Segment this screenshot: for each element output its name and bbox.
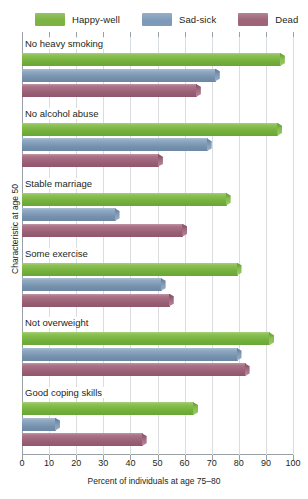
bar-happy-well xyxy=(22,53,285,66)
bar-group: Not overweight xyxy=(22,315,293,385)
bar-sad-sick xyxy=(22,69,220,82)
bar-cap xyxy=(182,224,187,237)
bar-sad-sick xyxy=(22,208,120,221)
bar-happy-well xyxy=(22,193,231,206)
bar-cap xyxy=(169,294,174,307)
chart-legend: Happy-well Sad-sick Dead xyxy=(0,9,308,29)
legend-swatch-happy-well xyxy=(35,13,65,26)
bar-body xyxy=(22,363,246,376)
bar-dead xyxy=(22,154,163,167)
bar-cap xyxy=(215,69,220,82)
bar-body xyxy=(22,154,159,167)
bar-cap xyxy=(161,278,166,291)
bar-group: Good coping skills xyxy=(22,385,293,455)
group-label: Not overweight xyxy=(24,317,91,328)
bar-happy-well xyxy=(22,402,198,415)
y-axis-title: Characteristic at age 50 xyxy=(10,144,20,314)
bar-group: No heavy smoking xyxy=(22,36,293,106)
bar-cap xyxy=(142,433,147,446)
x-tick-label-10: 10 xyxy=(44,458,54,468)
chart-root: Happy-well Sad-sick Dead Characteristic … xyxy=(0,0,308,499)
bar-cap xyxy=(226,193,231,206)
bar-cap xyxy=(115,208,120,221)
bar-group: No alcohol abuse xyxy=(22,106,293,176)
legend-label-happy-well: Happy-well xyxy=(72,14,120,25)
legend-label-sad-sick: Sad-sick xyxy=(179,14,216,25)
bar-cap xyxy=(55,418,60,431)
bar-cap xyxy=(245,363,250,376)
bar-body xyxy=(22,53,281,66)
bar-body xyxy=(22,69,216,82)
legend-item-happy-well: Happy-well xyxy=(35,13,120,26)
bar-happy-well xyxy=(22,263,242,276)
x-axis-tick-labels: 0102030405060708090100 xyxy=(22,458,293,472)
group-label: Good coping skills xyxy=(24,387,105,398)
bar-body xyxy=(22,294,170,307)
bar-sad-sick xyxy=(22,278,166,291)
bar-body xyxy=(22,138,208,151)
bar-dead xyxy=(22,224,187,237)
bar-body xyxy=(22,348,238,361)
bar-body xyxy=(22,418,56,431)
x-tick-label-20: 20 xyxy=(71,458,81,468)
bar-group: Some exercise xyxy=(22,246,293,316)
group-label: Stable marriage xyxy=(24,178,95,189)
group-label: No heavy smoking xyxy=(24,38,106,49)
x-axis-title: Percent of individuals at age 75–80 xyxy=(0,476,308,486)
bar-cap xyxy=(207,138,212,151)
bar-dead xyxy=(22,294,174,307)
bar-happy-well xyxy=(22,123,282,136)
bar-body xyxy=(22,224,183,237)
x-tick-label-60: 60 xyxy=(180,458,190,468)
bar-body xyxy=(22,278,162,291)
bar-cap xyxy=(280,53,285,66)
legend-item-dead: Dead xyxy=(238,13,298,26)
bar-cap xyxy=(277,123,282,136)
legend-swatch-sad-sick xyxy=(142,13,172,26)
x-tick-label-40: 40 xyxy=(125,458,135,468)
bar-cap xyxy=(269,332,274,345)
x-tick-label-100: 100 xyxy=(285,458,300,468)
x-tick-label-80: 80 xyxy=(234,458,244,468)
bar-body xyxy=(22,332,270,345)
bar-sad-sick xyxy=(22,138,212,151)
bar-sad-sick xyxy=(22,348,242,361)
x-tick-label-30: 30 xyxy=(98,458,108,468)
legend-label-dead: Dead xyxy=(275,14,298,25)
bar-body xyxy=(22,208,116,221)
bar-dead xyxy=(22,363,250,376)
bar-dead xyxy=(22,433,147,446)
x-tick-label-0: 0 xyxy=(19,458,24,468)
legend-swatch-dead xyxy=(238,13,268,26)
bar-cap xyxy=(196,84,201,97)
bar-cap xyxy=(193,402,198,415)
bar-body xyxy=(22,402,194,415)
bar-body xyxy=(22,193,227,206)
bar-cap xyxy=(237,348,242,361)
x-tick-label-70: 70 xyxy=(207,458,217,468)
bar-happy-well xyxy=(22,332,274,345)
tick-top-100 xyxy=(293,32,294,37)
group-label: No alcohol abuse xyxy=(24,108,101,119)
group-label: Some exercise xyxy=(24,248,91,259)
gridline-100 xyxy=(293,36,294,455)
bar-body xyxy=(22,263,238,276)
bar-cap xyxy=(237,263,242,276)
legend-item-sad-sick: Sad-sick xyxy=(142,13,216,26)
bar-body xyxy=(22,123,278,136)
x-tick-label-50: 50 xyxy=(152,458,162,468)
bar-body xyxy=(22,433,143,446)
bar-sad-sick xyxy=(22,418,60,431)
x-tick-label-90: 90 xyxy=(261,458,271,468)
bar-body xyxy=(22,84,197,97)
bar-cap xyxy=(158,154,163,167)
bar-dead xyxy=(22,84,201,97)
bar-group: Stable marriage xyxy=(22,176,293,246)
plot-area: No heavy smokingNo alcohol abuseStable m… xyxy=(22,36,293,455)
